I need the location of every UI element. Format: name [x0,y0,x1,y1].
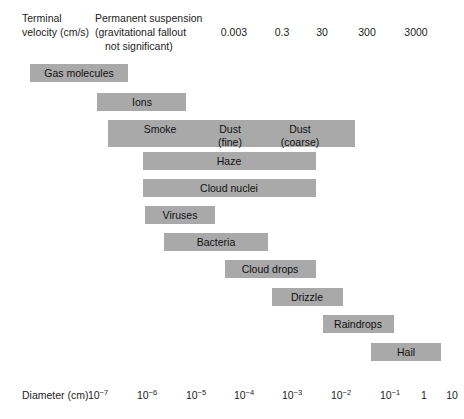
axis-tick-exponent: −5 [198,388,207,397]
axis-tick-base: 10 [186,389,198,401]
axis-label-diameter: Diameter (cm) [22,388,89,402]
particle-bar-label: Bacteria [197,236,236,249]
axis-tick-exponent: −1 [392,388,401,397]
particle-bar-label: Hail [397,346,415,359]
axis-tick: 1 [421,388,427,402]
axis-tick-base: 10 [137,389,149,401]
axis-tick-exponent: −2 [343,388,352,397]
axis-tick-exponent: −7 [100,388,109,397]
axis-tick-base: 10 [380,389,392,401]
axis-tick-exponent: −4 [246,388,255,397]
axis-tick-base: 1 [421,389,427,401]
axis-tick-base: 10 [88,389,100,401]
particle-bar-label: Dust (coarse) [281,123,320,148]
axis-tick: 10−4 [234,388,254,402]
axis-tick-exponent: −3 [294,388,303,397]
axis-tick: 10 [446,388,458,402]
particle-bar-label: Smoke [144,123,177,136]
particle-bar-label: Cloud nuclei [200,182,258,195]
axis-tick: 10−5 [186,388,206,402]
particle-bar-label: Viruses [163,209,198,222]
axis-tick: 10−7 [88,388,108,402]
particle-bar-label: Raindrops [334,318,382,331]
particle-bar-label: Ions [132,96,152,109]
particle-bar-label: Gas molecules [44,67,113,80]
particle-bar-label: Drizzle [291,291,323,304]
particle-bar-label: Cloud drops [242,263,299,276]
particle-bar-label: Dust (fine) [218,123,242,148]
axis-tick-exponent: −6 [149,388,158,397]
particle-size-velocity-diagram: Terminalvelocity (cm/s) Permanent suspen… [0,0,464,419]
particle-bars-group: Gas moleculesIonsSmokeDust (fine)Dust (c… [0,0,464,419]
axis-tick-base: 10 [331,389,343,401]
axis-tick: 10−1 [380,388,400,402]
axis-tick-base: 10 [234,389,246,401]
axis-tick: 10−2 [331,388,351,402]
axis-tick: 10−3 [282,388,302,402]
axis-tick-base: 10 [446,389,458,401]
particle-bar-label: Haze [217,155,242,168]
axis-tick: 10−6 [137,388,157,402]
axis-tick-base: 10 [282,389,294,401]
